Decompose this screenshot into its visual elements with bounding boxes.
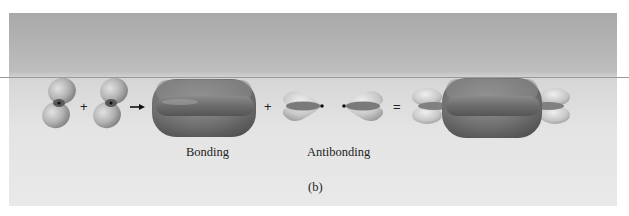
bonding-orbital — [152, 79, 256, 137]
plus-operator-1: + — [80, 100, 88, 113]
p-orbital-atom-1 — [38, 74, 79, 132]
p-orbital-atom-2 — [89, 74, 131, 132]
antibonding-label: Antibonding — [307, 145, 370, 160]
bonding-label: Bonding — [186, 145, 229, 160]
antibonding-orbital-left — [283, 91, 324, 121]
combined-orbitals — [412, 78, 570, 138]
antibonding-orbital-right — [342, 91, 383, 121]
arrow-icon — [130, 104, 145, 110]
panel-label: (b) — [308, 180, 323, 195]
equals-operator: = — [393, 100, 401, 113]
plus-operator-2: + — [264, 100, 272, 113]
